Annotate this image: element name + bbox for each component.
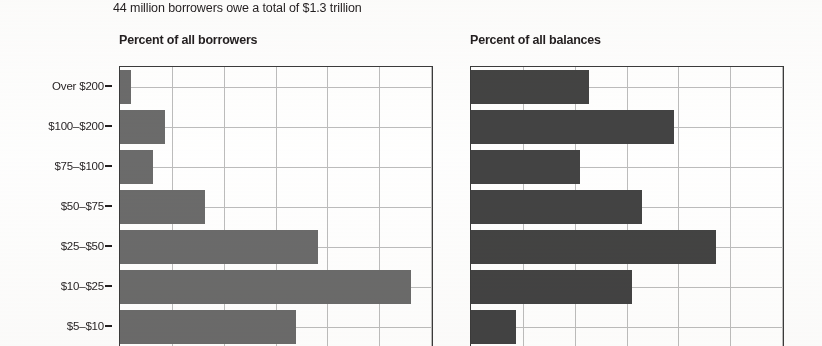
y-gridline	[120, 167, 432, 168]
y-axis-tick-mark	[105, 245, 112, 247]
y-axis-tick-label: $25–$50	[61, 239, 104, 253]
bar	[120, 110, 165, 144]
plot-area-borrowers	[119, 66, 433, 346]
panel-title-balances: Percent of all balances	[470, 33, 601, 47]
bar	[471, 70, 589, 104]
panel-title-borrowers: Percent of all borrowers	[119, 33, 257, 47]
y-gridline	[471, 327, 783, 328]
y-gridline	[120, 127, 432, 128]
y-axis-tick-mark	[105, 125, 112, 127]
figure-headline: 44 million borrowers owe a total of $1.3…	[113, 1, 362, 15]
y-axis-tick-mark	[105, 325, 112, 327]
bar	[471, 190, 642, 224]
y-axis-tick-label: $50–$75	[61, 199, 104, 213]
y-axis-tick-mark	[105, 205, 112, 207]
bar	[120, 190, 205, 224]
y-axis-tick-label: $10–$25	[61, 279, 104, 293]
bar	[471, 270, 632, 304]
y-axis-tick-label: $100–$200	[48, 119, 104, 133]
bar	[120, 230, 318, 264]
y-axis-tick-label: $5–$10	[67, 319, 104, 333]
bar	[120, 150, 153, 184]
chart-figure: 44 million borrowers owe a total of $1.3…	[0, 0, 822, 346]
y-axis-tick-mark	[105, 285, 112, 287]
y-axis-tick-labels: Over $200$100–$200$75–$100$50–$75$25–$50…	[0, 66, 112, 346]
bar	[120, 270, 411, 304]
y-axis-tick-label: $75–$100	[54, 159, 104, 173]
y-gridline	[120, 87, 432, 88]
bar	[120, 310, 296, 344]
y-axis-tick-label: Over $200	[52, 79, 104, 93]
bar	[120, 70, 131, 104]
bar	[471, 150, 580, 184]
y-axis-tick-mark	[105, 165, 112, 167]
y-axis-tick-mark	[105, 85, 112, 87]
bar	[471, 310, 516, 344]
bar	[471, 110, 674, 144]
plot-area-balances	[470, 66, 784, 346]
bar	[471, 230, 716, 264]
